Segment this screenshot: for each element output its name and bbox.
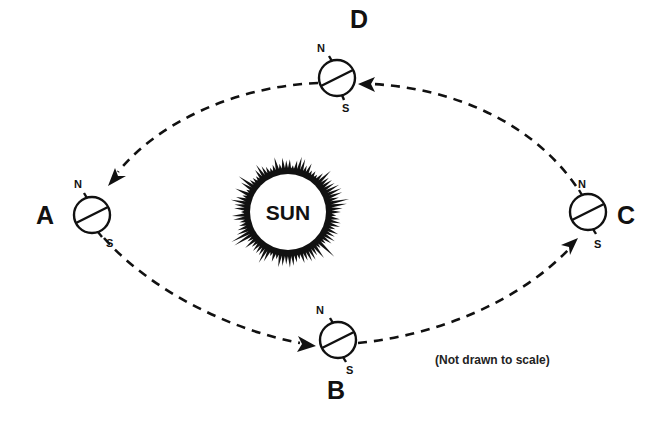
arrowhead-to-c (561, 238, 578, 255)
orbit-path (104, 77, 578, 352)
arrowhead-to-b (297, 336, 316, 352)
orbit-diagram: SUN N S A N S D N S B N S C (No (0, 0, 661, 430)
position-label-c: C (617, 201, 635, 229)
orbit-segment-d-to-a (118, 83, 318, 172)
position-label-d: D (350, 5, 368, 33)
position-label-a: A (36, 201, 54, 229)
north-pole-label: N (316, 304, 324, 316)
sun: SUN (231, 157, 349, 268)
arrowhead-to-a (108, 168, 126, 186)
earth-position-b: N S (316, 304, 356, 376)
south-pole-label: S (594, 238, 601, 250)
sun-label: SUN (266, 201, 310, 224)
orbit-segment-c-to-d (372, 84, 576, 186)
north-pole-label: N (317, 42, 325, 54)
south-pole-label: S (346, 364, 353, 376)
north-pole-label: N (74, 178, 82, 190)
south-pole-label: S (342, 102, 349, 114)
position-label-b: B (327, 376, 345, 404)
earth-position-d: N S (317, 42, 355, 114)
earth-position-a: N S (74, 178, 113, 249)
south-pole-label: S (106, 237, 113, 249)
orbit-segment-b-to-c (358, 250, 568, 343)
scale-note: (Not drawn to scale) (435, 353, 550, 367)
north-pole-label: N (578, 178, 586, 190)
arrowhead-to-d (358, 77, 375, 92)
